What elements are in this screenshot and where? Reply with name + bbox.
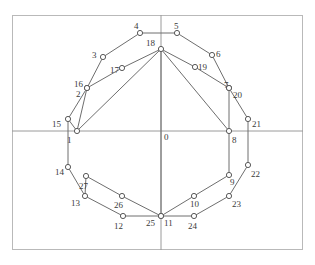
vertex-label-14: 14 [55, 168, 64, 177]
vertex-label-2: 2 [76, 90, 81, 99]
polygon-edge-inner [177, 33, 212, 55]
diagram-canvas: 0123456789101112131415161718192021222324… [0, 0, 315, 265]
vertex-marker-8 [226, 128, 231, 133]
vertex-label-23: 23 [232, 200, 241, 209]
vertex-marker-14 [65, 164, 70, 169]
vertex-label-24: 24 [188, 222, 197, 231]
vertex-marker-26 [119, 193, 124, 198]
vertex-marker-13 [82, 193, 87, 198]
vertex-label-26: 26 [114, 201, 123, 210]
polygon-edge-outer [161, 49, 195, 67]
vertex-marker-17 [119, 65, 124, 70]
vertex-marker-18 [158, 46, 163, 51]
vertex-label-11: 11 [164, 219, 173, 228]
vertex-label-12: 12 [114, 222, 123, 231]
vertex-label-8: 8 [232, 136, 237, 145]
vertex-marker-22 [245, 162, 250, 167]
vertex-marker-21 [245, 116, 250, 121]
vertex-label-15: 15 [52, 120, 61, 129]
vertex-label-7: 7 [224, 81, 229, 90]
vertex-marker-6 [209, 52, 214, 57]
vertex-label-27: 27 [79, 182, 88, 191]
polygon-edge-outer [122, 49, 161, 68]
vertex-label-10: 10 [190, 200, 199, 209]
vertex-marker-23 [226, 193, 231, 198]
vertex-label-5: 5 [174, 22, 179, 31]
vertex-label-4: 4 [134, 22, 139, 31]
vertex-marker-19 [192, 64, 197, 69]
vertex-label-22: 22 [251, 170, 260, 179]
polygon-edge-outer [86, 176, 122, 196]
polygon-edge-inner [194, 175, 229, 196]
vertex-label-20: 20 [233, 91, 242, 100]
polygon-edge-outer [122, 196, 161, 216]
vertex-marker-3 [100, 54, 105, 59]
vertex-marker-16 [84, 85, 89, 90]
vertex-marker-10 [191, 193, 196, 198]
vertex-marker-27 [83, 173, 88, 178]
vertex-label-13: 13 [71, 199, 80, 208]
edges-group [68, 33, 248, 216]
vertex-marker-5 [174, 30, 179, 35]
vertex-label-1: 1 [67, 136, 72, 145]
vertex-label-6: 6 [216, 50, 221, 59]
vertex-label-9: 9 [230, 178, 235, 187]
vertex-label-19: 19 [198, 63, 207, 72]
vertex-label-25: 25 [146, 219, 155, 228]
polygon-diagram [0, 0, 315, 265]
vertex-marker-25 [158, 213, 163, 218]
vertex-label-3: 3 [92, 51, 97, 60]
vertex-marker-4 [137, 30, 142, 35]
vertex-label-18: 18 [146, 39, 155, 48]
vertex-marker-12 [120, 213, 125, 218]
vertex-marker-1 [74, 128, 79, 133]
polygon-edge-spoke [77, 49, 161, 131]
polygon-edge-outer [194, 196, 229, 216]
vertex-marker-15 [65, 116, 70, 121]
vertex-label-16: 16 [74, 80, 83, 89]
vertex-marker-24 [191, 213, 196, 218]
polygon-edge-inner [103, 33, 140, 57]
vertex-label-0: 0 [164, 133, 169, 142]
vertex-label-17: 17 [110, 66, 119, 75]
polygon-edge-spoke [161, 49, 229, 131]
vertex-label-21: 21 [252, 120, 261, 129]
